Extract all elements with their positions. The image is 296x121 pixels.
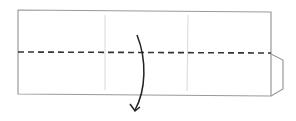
side-flap	[271, 54, 283, 96]
fold-diagram	[0, 0, 296, 121]
arrowhead-icon	[130, 104, 140, 111]
